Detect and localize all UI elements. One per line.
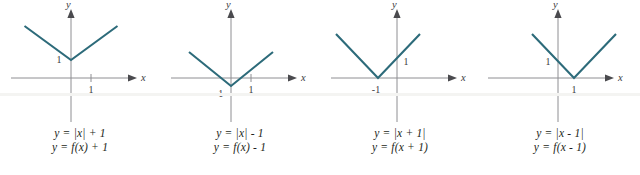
- graph-canvas-shift-right: x y 1 1: [480, 0, 640, 125]
- y-axis-label: y: [225, 0, 231, 10]
- caption-line-equation: y = |x| - 1: [160, 126, 320, 140]
- x-tick-label: 1: [249, 84, 254, 95]
- panel-caption-shift-down: y = |x| - 1 y = f(x) - 1: [160, 126, 320, 154]
- y-intercept-label: 1: [57, 54, 62, 65]
- x-tick-label: 1: [89, 84, 94, 95]
- y-axis-arrow-icon: [393, 9, 400, 18]
- x-axis-arrow-icon: [605, 74, 614, 81]
- x-axis-arrow-icon: [128, 74, 137, 81]
- panel-shift-right: x y 1 1 y = |x - 1| y = f(x - 1): [480, 0, 640, 175]
- x-intercept-label: 1: [572, 84, 577, 95]
- panel-caption-shift-right: y = |x - 1| y = f(x - 1): [480, 126, 640, 154]
- caption-line-transform: y = f(x + 1): [320, 140, 480, 154]
- y-axis-label: y: [552, 0, 558, 10]
- panel-shift-up: x y 1 1 y = |x| + 1 y = f(x) + 1: [0, 0, 160, 175]
- x-axis-label: x: [300, 72, 306, 83]
- graph-canvas-shift-up: x y 1 1: [0, 0, 160, 125]
- x-axis-label: x: [460, 72, 466, 83]
- y-axis-arrow-icon: [67, 9, 74, 18]
- y-intercept-label: -1: [215, 88, 223, 99]
- y-axis-arrow-icon: [227, 9, 234, 18]
- graph-figure-row: x y 1 1 y = |x| + 1 y = f(x) + 1 x y -1 …: [0, 0, 640, 175]
- caption-line-transform: y = f(x - 1): [480, 140, 640, 154]
- caption-line-equation: y = |x - 1|: [480, 126, 640, 140]
- y-axis-label-one: 1: [546, 56, 551, 67]
- graph-canvas-shift-down: x y -1 1: [160, 0, 320, 125]
- caption-line-transform: y = f(x) - 1: [160, 140, 320, 154]
- caption-line-equation: y = |x| + 1: [0, 126, 160, 140]
- caption-line-transform: y = f(x) + 1: [0, 140, 160, 154]
- y-axis-label: y: [65, 0, 71, 10]
- x-intercept-label: -1: [372, 84, 380, 95]
- panel-caption-shift-up: y = |x| + 1 y = f(x) + 1: [0, 126, 160, 154]
- x-axis-arrow-icon: [448, 74, 457, 81]
- panel-shift-down: x y -1 1 y = |x| - 1 y = f(x) - 1: [160, 0, 320, 175]
- y-axis-label: y: [391, 0, 397, 10]
- graph-canvas-shift-left: x y 1 -1: [320, 0, 480, 125]
- panel-caption-shift-left: y = |x + 1| y = f(x + 1): [320, 126, 480, 154]
- x-axis-arrow-icon: [288, 74, 297, 81]
- x-axis-label: x: [140, 72, 146, 83]
- x-axis-label: x: [617, 72, 623, 83]
- caption-line-equation: y = |x + 1|: [320, 126, 480, 140]
- panel-shift-left: x y 1 -1 y = |x + 1| y = f(x + 1): [320, 0, 480, 175]
- y-axis-label-one: 1: [404, 56, 409, 67]
- y-axis-arrow-icon: [554, 9, 561, 18]
